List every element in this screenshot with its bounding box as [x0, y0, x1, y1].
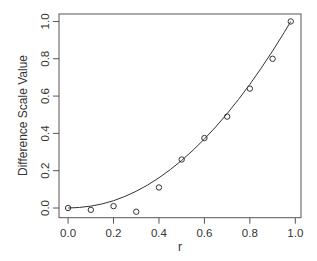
y-tick-label: 0.4 [39, 125, 51, 142]
x-tick-label: 0.2 [106, 227, 122, 239]
x-tick-label: 0.4 [151, 227, 168, 239]
x-tick-label: 0.8 [242, 227, 258, 239]
x-axis-label: r [178, 240, 182, 254]
x-tick-label: 0.6 [196, 227, 212, 239]
y-tick-label: 0.2 [39, 163, 51, 179]
y-tick-label: 1.0 [39, 13, 51, 29]
x-tick-label: 0.0 [60, 227, 76, 239]
scatter-chart: 0.00.20.40.60.81.0 0.00.20.40.60.81.0 r … [0, 0, 317, 261]
y-tick-label: 0.0 [39, 200, 51, 216]
y-tick-label: 0.6 [39, 88, 51, 104]
x-tick-label: 1.0 [287, 227, 303, 239]
y-axis-label: Difference Scale Value [16, 55, 30, 176]
y-tick-label: 0.8 [39, 51, 51, 67]
